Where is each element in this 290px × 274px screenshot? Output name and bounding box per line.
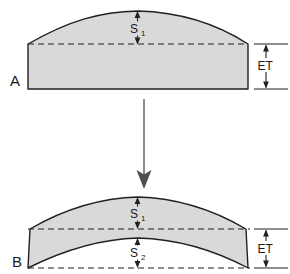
panel-b-sag-top-label-subscript: 1 xyxy=(141,214,146,223)
panel-a-sag-label: S xyxy=(130,22,138,36)
panel-a-group: S 1 ET A xyxy=(10,11,288,89)
panel-b-sag-top-label: S xyxy=(130,207,138,221)
panel-b-sag-bottom-label: S xyxy=(130,246,138,260)
panel-b-group: S 1 S 2 ET xyxy=(12,197,288,270)
lens-sagitta-diagram: S 1 ET A xyxy=(0,0,290,274)
panel-b-sag-bottom-arrow-head-up xyxy=(135,238,141,245)
panel-b-sag-bottom-dimension: S 2 xyxy=(128,238,148,268)
panel-b-et-dimension: ET xyxy=(256,230,277,268)
process-flow-arrow xyxy=(137,99,152,189)
diagram-canvas: S 1 ET A xyxy=(0,0,290,274)
panel-a-et-dimension: ET xyxy=(256,45,277,89)
panel-b-et-arrow-head-down xyxy=(263,261,269,268)
panel-a-letter: A xyxy=(10,72,20,89)
panel-b-et-arrow-head-up xyxy=(263,230,269,237)
panel-b-sag-bottom-label-subscript: 2 xyxy=(141,253,146,262)
panel-a-et-arrow-head-up xyxy=(263,45,269,52)
panel-a-sag-label-subscript: 1 xyxy=(141,29,146,38)
panel-b-letter: B xyxy=(12,253,22,270)
panel-a-et-arrow-head-down xyxy=(263,82,269,89)
panel-b-et-label: ET xyxy=(258,242,274,256)
panel-a-et-label: ET xyxy=(258,59,274,73)
panel-b-sag-bottom-arrow-head-down xyxy=(135,261,141,268)
